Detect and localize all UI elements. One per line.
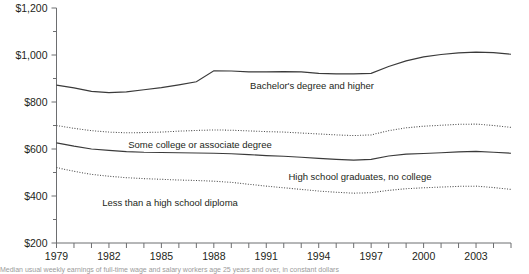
x-tick-label: 1985: [150, 250, 174, 262]
chart-container: $200$400$600$800$1,000$1,200197919821985…: [0, 0, 529, 274]
chart-footnote: Median usual weekly earnings of full-tim…: [0, 265, 529, 274]
y-tick-label: $400: [24, 190, 48, 202]
y-tick-label: $1,000: [15, 49, 47, 61]
x-tick-label: 1988: [202, 250, 226, 262]
x-tick-label: 2003: [464, 250, 488, 262]
series-line-2: [57, 143, 512, 160]
x-tick-label: 2000: [412, 250, 436, 262]
y-tick-label: $1,200: [15, 2, 47, 14]
series-label-1: Some college or associate degree: [128, 139, 272, 150]
x-tick-label: 1997: [359, 250, 383, 262]
y-tick-label: $800: [24, 96, 48, 108]
series-label-3: Less than a high school diploma: [102, 197, 238, 208]
x-tick-label: 1982: [97, 250, 121, 262]
line-chart: $200$400$600$800$1,000$1,200197919821985…: [0, 0, 529, 274]
y-tick-label: $600: [24, 143, 48, 155]
x-tick-label: 1991: [255, 250, 279, 262]
y-tick-label: $200: [24, 237, 48, 249]
series-label-0: Bachelor's degree and higher: [250, 80, 374, 91]
series-label-2: High school graduates, no college: [288, 171, 431, 182]
series-line-3: [57, 168, 512, 194]
series-line-1: [57, 124, 512, 136]
x-tick-label: 1994: [307, 250, 331, 262]
x-tick-label: 1979: [45, 250, 69, 262]
